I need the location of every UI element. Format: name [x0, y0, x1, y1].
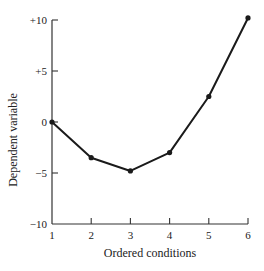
data-series [49, 15, 250, 173]
y-tick-label: −10 [30, 218, 48, 230]
data-point-marker [128, 168, 133, 173]
y-axis-label: Dependent variable [6, 93, 20, 187]
x-tick-label: 1 [49, 229, 55, 241]
data-point-marker [49, 119, 54, 124]
x-tick-label: 3 [128, 229, 134, 241]
x-tick-label: 4 [167, 229, 173, 241]
x-tick-label: 5 [206, 229, 212, 241]
y-tick-label: −5 [35, 167, 47, 179]
data-point-marker [206, 94, 211, 99]
y-tick-label: 0 [42, 116, 48, 128]
x-tick-label: 2 [88, 229, 94, 241]
data-point-marker [89, 155, 94, 160]
x-tick-label: 6 [245, 229, 251, 241]
y-tick-label: +5 [35, 65, 47, 77]
data-point-marker [167, 150, 172, 155]
x-axis-label: Ordered conditions [104, 246, 197, 260]
x-axis: 123456 [49, 218, 251, 241]
series-line [52, 18, 248, 171]
y-tick-label: +10 [30, 14, 48, 26]
data-point-marker [245, 15, 250, 20]
line-chart: +10+50−5−10 123456 Ordered conditions De… [0, 0, 264, 271]
